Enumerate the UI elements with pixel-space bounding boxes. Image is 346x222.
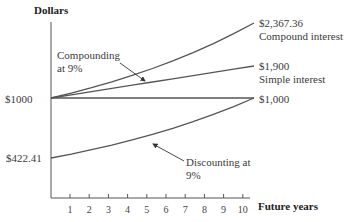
compounding-note: Compounding	[57, 49, 120, 61]
discounting-note-rate: 9%	[186, 169, 201, 181]
simple-name-label: Simple interest	[259, 73, 325, 85]
x-ticks	[70, 194, 243, 198]
x-tick-label: 5	[140, 204, 154, 215]
discounting-note: Discounting at	[186, 156, 250, 168]
y-label-1000: $1000	[5, 93, 33, 105]
x-tick-label: 3	[101, 204, 115, 215]
x-tick-label: 8	[197, 204, 211, 215]
y-label-422: $422.41	[6, 152, 42, 164]
principal-value-label: $1,000	[259, 93, 289, 105]
x-tick-label: 7	[178, 204, 192, 215]
y-axis-label: Dollars	[34, 4, 68, 16]
x-tick-label: 10	[236, 204, 250, 215]
x-tick-label: 2	[82, 204, 96, 215]
compounding-note-rate: at 9%	[57, 62, 82, 74]
x-tick-label: 6	[159, 204, 173, 215]
x-tick-label: 1	[63, 204, 77, 215]
x-axis-label: Future years	[258, 200, 318, 212]
x-tick-label: 4	[121, 204, 135, 215]
simple-value-label: $1,900	[259, 60, 289, 72]
compound-name-label: Compound interest	[259, 30, 343, 42]
discounting-line	[51, 98, 254, 158]
compound-value-label: $2,367.36	[259, 17, 303, 29]
x-tick-label: 9	[217, 204, 231, 215]
discounting-arrow	[153, 144, 184, 161]
